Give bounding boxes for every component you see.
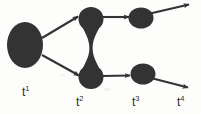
node-t2-lower xyxy=(79,65,104,89)
arrow-t2-lower-to-t3-lower xyxy=(102,76,130,77)
lineage-diagram xyxy=(0,0,201,114)
arrow-t3-lower-to-t4 xyxy=(151,78,188,88)
node-t3-upper xyxy=(129,8,154,29)
arrow-t3-upper-to-t4 xyxy=(148,5,189,15)
arrow-t1-to-t2-upper xyxy=(42,17,78,39)
node-t2-upper xyxy=(79,7,104,31)
timepoint-label-t1: t1 xyxy=(22,86,30,98)
timepoint-label-t1-exponent: 1 xyxy=(25,84,29,93)
timepoint-label-t4: t4 xyxy=(177,96,185,108)
timepoint-label-t2-exponent: 2 xyxy=(79,94,83,103)
timepoint-label-t2: t2 xyxy=(76,96,84,108)
node-t1 xyxy=(7,22,43,68)
edges-group xyxy=(42,5,189,88)
timepoint-label-t3-exponent: 3 xyxy=(135,94,139,103)
node-t3-lower xyxy=(131,64,156,85)
nodes-group xyxy=(7,7,156,89)
figure-canvas: t1 t2 t3 t4 xyxy=(0,0,201,114)
arrow-t1-to-t2-lower xyxy=(42,55,79,76)
timepoint-label-t4-exponent: 4 xyxy=(180,94,184,103)
timepoint-label-t3: t3 xyxy=(132,96,140,108)
